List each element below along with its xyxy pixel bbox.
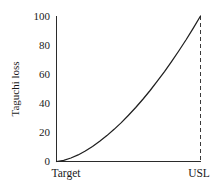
x-label-target: Target [52, 167, 82, 180]
y-tick-label: 0 [45, 155, 51, 167]
y-axis-title: Taguchi loss [9, 61, 21, 116]
y-tick-label: 20 [39, 126, 51, 138]
y-tick-label: 40 [39, 97, 51, 109]
taguchi-loss-curve [57, 16, 201, 162]
y-tick-label: 80 [39, 39, 51, 51]
y-tick-label: 60 [39, 68, 51, 80]
taguchi-loss-chart: 0 20 40 60 80 100 Taguchi loss Target US… [0, 0, 217, 188]
chart-canvas: 0 20 40 60 80 100 Taguchi loss Target US… [0, 0, 217, 188]
y-tick-label: 100 [34, 10, 51, 22]
y-tick-labels: 0 20 40 60 80 100 [34, 10, 51, 167]
x-label-usl: USL [188, 167, 210, 179]
